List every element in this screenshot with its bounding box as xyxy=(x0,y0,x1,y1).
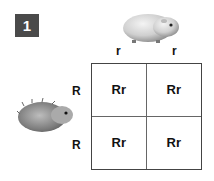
punnett-cell: Rr xyxy=(147,117,202,170)
top-allele-2: r xyxy=(172,44,177,58)
top-allele-1: r xyxy=(116,44,121,58)
rough-guinea-pig-icon xyxy=(16,96,78,136)
punnett-cell: Rr xyxy=(92,64,147,117)
punnett-square: Rr Rr Rr Rr xyxy=(91,63,202,170)
smooth-guinea-pig-icon xyxy=(120,8,182,46)
punnett-cell: Rr xyxy=(147,64,202,117)
left-allele-1: R xyxy=(72,84,81,98)
left-allele-2: R xyxy=(72,138,81,152)
step-number-badge: 1 xyxy=(15,14,39,37)
punnett-cell: Rr xyxy=(92,117,147,170)
